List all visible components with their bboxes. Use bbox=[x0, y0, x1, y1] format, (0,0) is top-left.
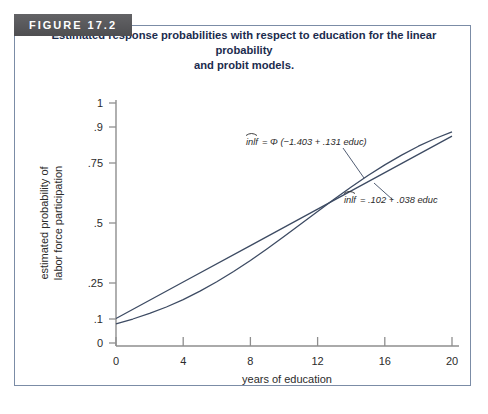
figure-container: FIGURE 17.2 Estimated response probabili… bbox=[0, 0, 488, 414]
figure-caption-line-2: and probit models. bbox=[194, 59, 294, 71]
figure-badge: FIGURE 17.2 bbox=[14, 14, 132, 36]
figure-border-box bbox=[14, 25, 471, 386]
figure-badge-label: FIGURE 17.2 bbox=[29, 19, 117, 31]
